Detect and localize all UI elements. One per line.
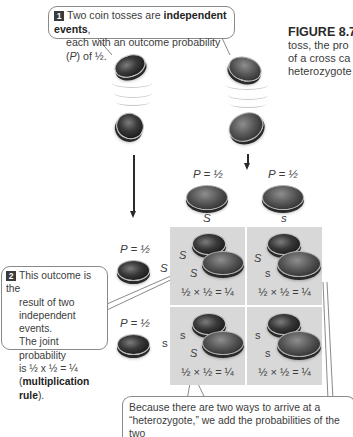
motion-lines-icon: [112, 78, 152, 88]
allele-left-S: S: [160, 262, 168, 274]
allele-upper: S: [254, 252, 261, 264]
arrow-head-icon: [130, 211, 136, 218]
step-badge-1: 1: [54, 11, 64, 21]
cell-sS: s S ½ × ½ = ¼: [170, 307, 245, 385]
prob-label-left-s: P = ½: [120, 317, 150, 329]
prob-label-top-s: P = ½: [268, 168, 298, 180]
motion-lines-icon: [230, 100, 266, 108]
motion-lines-icon: [226, 80, 268, 90]
cell-SS: S S ½ × ½ = ¼: [170, 227, 245, 305]
penny-coin: [202, 331, 244, 355]
penny-coin-heads: [186, 185, 228, 210]
step-badge-2: 2: [6, 271, 16, 281]
penny-coin: [277, 251, 321, 277]
allele-lower: S: [190, 347, 197, 359]
dime-coin-heads: [117, 260, 150, 281]
callout-multiplication-rule: 2This outcome is the result of two indep…: [1, 266, 108, 350]
allele-lower: s: [265, 347, 271, 359]
arrow-head-icon: [244, 163, 250, 170]
allele-top-s: s: [281, 212, 287, 224]
prob-label-left-S: P = ½: [120, 243, 150, 255]
allele-upper: s: [180, 329, 186, 341]
allele-lower: S: [190, 267, 197, 279]
figure-caption: FIGURE 8.7 toss, the pro of a cross ca h…: [288, 26, 353, 78]
penny-coin: [277, 331, 321, 357]
dime-coin-tossed-bottom: [112, 108, 148, 143]
callout-addition-rule: Because there are two ways to arrive at …: [122, 396, 353, 437]
allele-left-s: s: [162, 337, 168, 349]
allele-upper: s: [255, 329, 261, 341]
motion-lines-icon: [114, 88, 152, 98]
allele-lower: s: [265, 267, 271, 279]
penny-coin-tossed-bottom: [224, 107, 268, 148]
cell-equation: ½ × ½ = ¼: [170, 366, 245, 378]
callout1-line1: 1Two coin tosses are independent events,: [54, 9, 229, 36]
penny-coin: [202, 251, 244, 275]
penny-coin-tails: [262, 185, 304, 210]
cell-ss: s s ½ × ½ = ¼: [247, 307, 322, 385]
cell-Ss: S s ½ × ½ = ¼: [247, 227, 322, 305]
motion-lines-icon: [228, 90, 268, 100]
dime-coin-tails: [117, 334, 150, 355]
punnett-square: S S ½ × ½ = ¼ S s ½ × ½ = ¼ s S ½ × ½ = …: [170, 227, 322, 385]
prob-label-top-S: P = ½: [193, 168, 223, 180]
allele-upper: S: [179, 249, 186, 261]
cell-equation: ½ × ½ = ¼: [247, 286, 322, 298]
motion-lines-icon: [116, 98, 150, 106]
figure-title: FIGURE 8.7: [288, 26, 353, 39]
arrow-left-down: [133, 155, 135, 213]
cell-equation: ½ × ½ = ¼: [170, 286, 245, 298]
callout-independent-events: 1Two coin tosses are independent events,…: [48, 6, 235, 39]
cell-equation: ½ × ½ = ¼: [247, 366, 322, 378]
allele-top-S: S: [203, 212, 211, 224]
